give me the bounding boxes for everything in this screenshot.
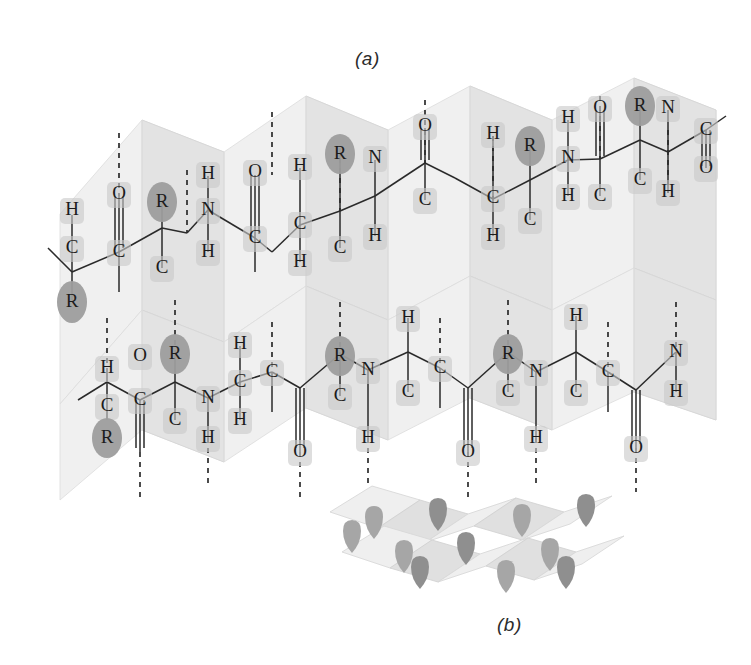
atom-H: H	[486, 122, 500, 143]
atom-R: R	[634, 94, 647, 115]
atom-N: N	[661, 96, 675, 117]
atom-C: C	[334, 384, 347, 405]
figure-canvas: (a) (b)	[0, 0, 751, 665]
atom-O: O	[629, 436, 643, 457]
atom-H: H	[293, 250, 307, 271]
atom-C: C	[266, 360, 279, 381]
atom-H: H	[529, 426, 543, 447]
atom-H: H	[233, 408, 247, 429]
atom-O: O	[248, 160, 262, 181]
atom-N: N	[368, 146, 382, 167]
atom-R: R	[502, 342, 515, 363]
atom-C: C	[101, 394, 114, 415]
atom-C: C	[434, 356, 447, 377]
atom-N: N	[669, 340, 683, 361]
atom-C: C	[156, 256, 169, 277]
atom-C: C	[487, 186, 500, 207]
atom-C: C	[134, 388, 147, 409]
atom-H: H	[661, 180, 675, 201]
atom-H: H	[486, 224, 500, 245]
atom-H: H	[361, 426, 375, 447]
atom-N: N	[561, 146, 575, 167]
atom-H: H	[293, 154, 307, 175]
inset-pleated-ribbon-model	[330, 486, 624, 593]
atom-O: O	[133, 344, 147, 365]
atom-R: R	[524, 134, 537, 155]
atom-R: R	[101, 426, 114, 447]
atom-C: C	[634, 168, 647, 189]
atom-H: H	[201, 162, 215, 183]
atom-R: R	[169, 342, 182, 363]
atom-C: C	[294, 212, 307, 233]
atom-O: O	[418, 114, 432, 135]
atom-O: O	[293, 440, 307, 461]
atom-C: C	[700, 118, 713, 139]
atom-N: N	[201, 198, 215, 219]
atom-C: C	[602, 360, 615, 381]
atom-C: C	[169, 408, 182, 429]
atom-C: C	[502, 380, 515, 401]
atom-C: C	[402, 380, 415, 401]
atom-H: H	[100, 356, 114, 377]
atom-C: C	[234, 370, 247, 391]
atom-H: H	[65, 198, 79, 219]
atom-H: H	[561, 184, 575, 205]
beta-sheet-illustration: H C R O C R C H N H O	[0, 0, 751, 665]
atom-C: C	[113, 240, 126, 261]
atom-N: N	[361, 358, 375, 379]
atom-O: O	[699, 156, 713, 177]
atom-R: R	[334, 344, 347, 365]
atom-H: H	[561, 106, 575, 127]
atom-O: O	[112, 182, 126, 203]
pleated-sheet-surface	[60, 78, 716, 500]
atom-H: H	[669, 380, 683, 401]
atom-N: N	[201, 386, 215, 407]
atom-C: C	[524, 208, 537, 229]
atom-R: R	[156, 190, 169, 211]
atom-C: C	[419, 188, 432, 209]
atom-H: H	[368, 224, 382, 245]
atom-N: N	[529, 360, 543, 381]
atom-H: H	[201, 426, 215, 447]
atom-C: C	[334, 236, 347, 257]
atom-H: H	[401, 306, 415, 327]
atom-H: H	[201, 240, 215, 261]
atom-C: C	[66, 236, 79, 257]
atom-O: O	[593, 96, 607, 117]
atom-R: R	[66, 290, 79, 311]
atom-C: C	[570, 380, 583, 401]
atom-O: O	[461, 440, 475, 461]
atom-C: C	[594, 184, 607, 205]
atom-H: H	[233, 332, 247, 353]
atom-R: R	[334, 142, 347, 163]
atom-C: C	[249, 226, 262, 247]
atom-H: H	[569, 304, 583, 325]
